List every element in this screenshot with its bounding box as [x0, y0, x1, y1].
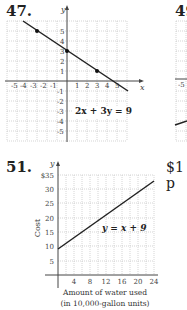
svg-text:24: 24 [150, 278, 159, 286]
svg-text:8: 8 [88, 278, 92, 286]
svg-text:(in 10,000-gallon units): (in 10,000-gallon units) [61, 299, 150, 308]
svg-text:12: 12 [102, 278, 111, 286]
svg-text:Cost: Cost [33, 218, 42, 237]
svg-text:y: y [49, 159, 55, 168]
svg-text:20: 20 [134, 278, 143, 286]
svg-text:4: 4 [72, 278, 77, 286]
svg-text:5: 5 [50, 258, 54, 266]
svg-text:25: 25 [45, 200, 54, 208]
svg-text:16: 16 [118, 278, 127, 286]
svg-text:10: 10 [45, 243, 54, 251]
svg-text:Amount of water used: Amount of water used [62, 288, 147, 297]
svg-text:30: 30 [45, 186, 54, 194]
graph-51: y $353025 201510 5 4812 162024 Cost Amou… [0, 0, 187, 310]
svg-text:15: 15 [45, 229, 54, 237]
svg-text:20: 20 [45, 215, 54, 223]
svg-text:$35: $35 [41, 172, 54, 180]
equation-51: y = x + 9 [102, 223, 146, 233]
